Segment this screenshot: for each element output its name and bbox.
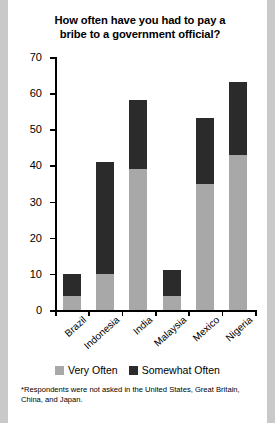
chart-title-line-2: bribe to a government official? [26,28,254,42]
bar-segment-very-often-mexico [196,184,214,311]
x-tick-6 [255,310,257,316]
chart-title-line-1: How often have you had to pay a [26,14,254,28]
bar-segment-somewhat-often-india [129,100,147,169]
bar-segment-somewhat-often-indonesia [96,162,114,274]
legend-swatch-icon [129,366,138,375]
bar-mexico [196,118,214,310]
x-tick-3 [155,310,157,316]
bar-indonesia [96,162,114,310]
y-tick-label-30: 30 [30,196,42,208]
bar-segment-very-often-india [129,169,147,310]
x-tick-0 [55,310,57,316]
y-tick-label-10: 10 [30,268,42,280]
bar-segment-somewhat-often-brazil [63,274,81,296]
y-tick-20: 20 [50,238,55,240]
bar-india [129,100,147,310]
y-axis-line [55,57,57,310]
y-tick-70: 70 [50,57,55,59]
chart-card: How often have you had to pay a bribe to… [8,0,267,423]
bar-segment-somewhat-often-mexico [196,118,214,183]
x-tick-2 [122,310,124,316]
x-label-india: India [131,314,154,337]
legend-item-somewhat-often: Somewhat Often [129,364,220,376]
chart-title: How often have you had to pay a bribe to… [26,14,254,41]
y-tick-60: 60 [50,93,55,95]
x-label-brazil: Brazil [62,314,88,339]
x-tick-1 [88,310,90,316]
bar-segment-somewhat-often-malaysia [163,270,181,295]
x-label-malaysia: Malaysia [151,314,188,349]
legend-swatch-icon [55,366,64,375]
legend-label: Somewhat Often [142,364,220,376]
bar-segment-very-often-brazil [63,296,81,310]
y-tick-50: 50 [50,129,55,131]
y-tick-label-0: 0 [36,304,42,316]
plot-area: 010203040506070 BrazilIndonesiaIndiaMala… [55,57,255,310]
x-label-mexico: Mexico [190,314,221,343]
y-tick-40: 40 [50,165,55,167]
bar-nigeria [229,82,247,310]
x-label-nigeria: Nigeria [224,314,255,343]
bar-segment-somewhat-often-nigeria [229,82,247,154]
x-tick-4 [188,310,190,316]
y-tick-label-50: 50 [30,123,42,135]
legend-item-very-often: Very Often [55,364,118,376]
bar-brazil [63,274,81,310]
bar-malaysia [163,270,181,310]
x-tick-5 [222,310,224,316]
chart-legend: Very OftenSomewhat Often [8,364,267,376]
bar-segment-very-often-nigeria [229,155,247,310]
bar-segment-very-often-indonesia [96,274,114,310]
y-tick-label-60: 60 [30,87,42,99]
chart-footnote: *Respondents were not asked in the Unite… [21,385,259,404]
bar-segment-very-often-malaysia [163,296,181,310]
y-tick-label-40: 40 [30,159,42,171]
y-tick-30: 30 [50,202,55,204]
x-label-indonesia: Indonesia [82,314,122,351]
y-tick-label-70: 70 [30,51,42,63]
y-tick-label-20: 20 [30,232,42,244]
y-tick-10: 10 [50,274,55,276]
legend-label: Very Often [68,364,118,376]
